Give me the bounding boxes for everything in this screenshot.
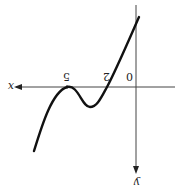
- x-axis: [14, 84, 175, 90]
- x-axis-arrow-icon: [14, 84, 22, 90]
- origin-label: 0: [126, 70, 133, 83]
- x-axis-label: x: [7, 80, 14, 93]
- y-axis-arrow-icon: [133, 166, 139, 174]
- function-graph: x y 0 2 5: [0, 0, 177, 194]
- function-curve: [34, 17, 139, 151]
- tick-label-5: 5: [63, 70, 70, 83]
- y-axis-label: y: [133, 176, 141, 189]
